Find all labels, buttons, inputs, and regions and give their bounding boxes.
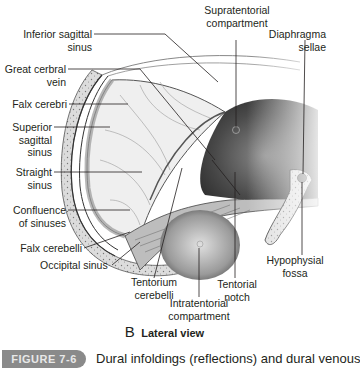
label-line: Superior — [0, 121, 52, 134]
label-occipital-sinus: Occipital sinus — [40, 259, 108, 272]
label-line: Great cerbral — [0, 63, 66, 76]
label-line: compartment — [160, 310, 238, 323]
label-line: Straight — [0, 166, 52, 179]
label-line: sagittal — [0, 134, 52, 147]
view-title-text: Lateral view — [141, 327, 204, 339]
label-line: Inferior sagittal — [14, 28, 92, 41]
label-line: Supratentorial — [198, 4, 276, 17]
label-great-cerebral-vein: Great cerbral vein — [0, 63, 66, 88]
label-tentorial-notch: Tentorial notch — [212, 278, 262, 303]
label-line: sinus — [0, 179, 52, 192]
label-falx-cerebri: Falx cerebri — [0, 98, 67, 111]
label-line: notch — [212, 291, 262, 304]
label-line: sellae — [262, 41, 326, 54]
label-line: Tentorial — [212, 278, 262, 291]
figure-badge: FIGURE 7-6 — [2, 350, 86, 368]
view-title: B Lateral view — [0, 323, 329, 340]
label-superior-sagittal-sinus: Superior sagittal sinus — [0, 121, 52, 159]
label-line: Falx cerebelli — [0, 242, 82, 255]
label-line: Occipital sinus — [40, 259, 108, 272]
label-diaphragma-sellae: Diaphragma sellae — [262, 28, 326, 53]
label-line: Diaphragma — [262, 28, 326, 41]
label-supratentorial-compartment: Supratentorial compartment — [198, 4, 276, 29]
label-line: Hypophysial — [262, 254, 328, 267]
label-line: Falx cerebri — [0, 98, 67, 111]
label-straight-sinus: Straight sinus — [0, 166, 52, 191]
label-inferior-sagittal-sinus: Inferior sagittal sinus — [14, 28, 92, 53]
label-line: Tentorium — [122, 276, 186, 289]
label-line: sinus — [14, 41, 92, 54]
label-line: vein — [0, 76, 66, 89]
label-line: fossa — [262, 267, 328, 280]
figure-caption: Dural infoldings (reflections) and dural… — [96, 351, 360, 366]
label-line: Confluence — [0, 204, 66, 217]
label-falx-cerebelli: Falx cerebelli — [0, 242, 82, 255]
label-hypophysial-fossa: Hypophysial fossa — [262, 254, 328, 279]
label-line: of sinuses — [0, 217, 66, 230]
label-line: sinus — [0, 146, 52, 159]
view-letter: B — [125, 323, 135, 340]
label-confluence-of-sinuses: Confluence of sinuses — [0, 204, 66, 229]
